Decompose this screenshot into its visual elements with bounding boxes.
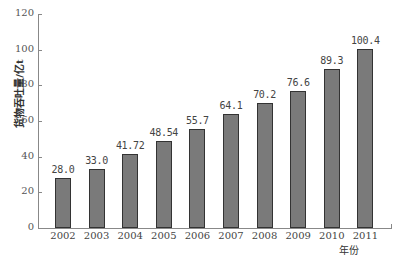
x-tick-label: 2007 — [214, 230, 248, 241]
value-label: 89.3 — [310, 55, 354, 66]
value-label: 55.7 — [175, 115, 219, 126]
y-tick — [38, 192, 42, 193]
y-axis-label: 货物吞吐量/亿t — [11, 44, 26, 144]
x-axis-end-tick — [391, 224, 392, 229]
y-tick — [38, 228, 42, 229]
y-tick — [38, 121, 42, 122]
bar-2004 — [122, 154, 138, 228]
x-tick-label: 2011 — [348, 230, 382, 241]
x-tick-label: 2002 — [46, 230, 80, 241]
value-label: 100.4 — [343, 35, 387, 46]
bar-2007 — [223, 114, 239, 228]
x-tick-label: 2004 — [113, 230, 147, 241]
y-tick-label: 60 — [10, 114, 34, 125]
x-tick-label: 2006 — [180, 230, 214, 241]
x-tick-label: 2003 — [80, 230, 114, 241]
x-tick-label: 2008 — [248, 230, 282, 241]
bar-2006 — [189, 129, 205, 228]
y-tick-label: 0 — [10, 221, 34, 232]
y-tick — [38, 157, 42, 158]
value-label: 48.54 — [142, 127, 186, 138]
bar-2002 — [55, 178, 71, 228]
x-tick-label: 2005 — [147, 230, 181, 241]
y-tick-label: 40 — [10, 150, 34, 161]
y-tick-label: 80 — [10, 78, 34, 89]
bar-2003 — [89, 169, 105, 228]
y-tick-label: 100 — [10, 43, 34, 54]
y-tick — [38, 14, 42, 15]
x-tick-label: 2009 — [281, 230, 315, 241]
y-tick — [38, 50, 42, 51]
value-label: 70.2 — [243, 89, 287, 100]
y-tick-label: 120 — [10, 7, 34, 18]
x-tick-label: 2010 — [315, 230, 349, 241]
value-label: 33.0 — [75, 155, 119, 166]
value-label: 41.72 — [108, 140, 152, 151]
bar-2005 — [156, 141, 172, 228]
bar-chart: 货物吞吐量/亿t 020406080100120 28.0200233.0200… — [0, 0, 396, 258]
bar-2009 — [290, 91, 306, 228]
value-label: 64.1 — [209, 100, 253, 111]
bar-2011 — [357, 49, 373, 228]
value-label: 76.6 — [276, 77, 320, 88]
bar-2008 — [257, 103, 273, 228]
y-tick — [38, 85, 42, 86]
y-tick-label: 20 — [10, 185, 34, 196]
bar-2010 — [324, 69, 340, 228]
x-axis-label: 年份 — [339, 242, 359, 257]
x-axis — [38, 228, 392, 229]
